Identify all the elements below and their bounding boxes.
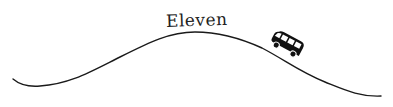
hill-diagram: Eleven (0, 0, 393, 107)
hill-curve (13, 32, 381, 96)
hill-svg: Eleven (0, 0, 393, 107)
hill-label: Eleven (166, 9, 228, 31)
